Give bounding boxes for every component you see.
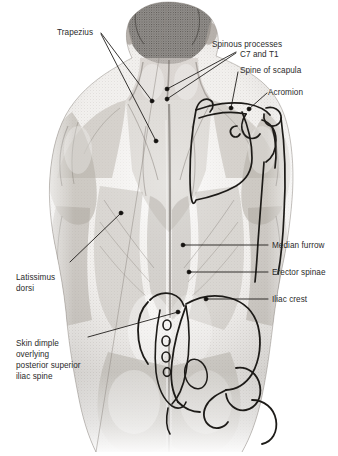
label-erector-spinae: Erector spinae [272, 268, 326, 278]
label-latissimus-dorsi: Latissimus [16, 273, 55, 283]
label-skin-dimple-line4: iliac spine [16, 372, 53, 382]
label-acromion: Acromion [268, 88, 303, 98]
label-spinous-processes-line2: C7 and T1 [240, 50, 279, 60]
label-trapezius: Trapezius [57, 28, 93, 38]
label-median-furrow: Median furrow [272, 241, 325, 251]
label-skin-dimple-line3: posterior superior [16, 361, 81, 371]
label-skin-dimple-line2: overlying [16, 350, 49, 360]
label-spine-of-scapula: Spine of scapula [240, 66, 301, 76]
label-skin-dimple: Skin dimple [16, 339, 59, 349]
label-iliac-crest: Iliac crest [272, 295, 307, 305]
label-latissimus-dorsi-line2: dorsi [16, 284, 34, 294]
label-spinous-processes: Spinous processes [212, 40, 282, 50]
